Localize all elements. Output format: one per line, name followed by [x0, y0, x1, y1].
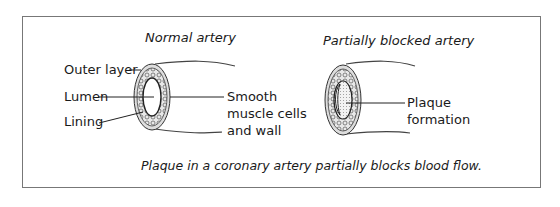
blocked-artery-title: Partially blocked artery — [323, 33, 474, 48]
blocked-artery-drawing — [325, 61, 415, 135]
label-lumen: Lumen — [64, 88, 108, 105]
label-plaque-1: Plaque — [407, 94, 451, 111]
label-outer-layer: Outer layer — [64, 61, 138, 78]
label-plaque-2: formation — [407, 111, 470, 128]
label-lining: Lining — [64, 113, 103, 130]
figure-caption: Plaque in a coronary artery partially bl… — [141, 158, 482, 173]
label-smooth-muscle-3: and wall — [227, 122, 281, 139]
label-smooth-muscle-2: muscle cells — [227, 105, 307, 122]
label-smooth-muscle-1: Smooth — [227, 88, 277, 105]
normal-artery-title: Normal artery — [145, 30, 236, 45]
